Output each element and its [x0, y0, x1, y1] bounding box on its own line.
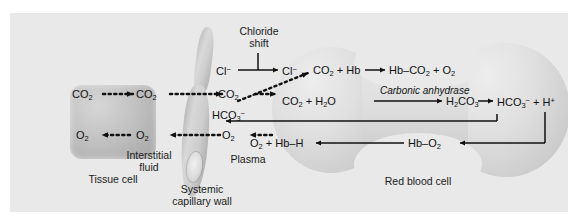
h2co3-co3-subscript: 3 [475, 100, 479, 109]
hydration-co2-subscript: 2 [299, 100, 303, 109]
diagram-canvas: CO2 O2 CO2 O2 CO2 HCO3− O2 Cl− Chloride … [0, 0, 575, 224]
co2-tissue-subscript: 2 [89, 93, 93, 102]
chloride-shift-label-line2: shift [236, 37, 282, 49]
reaction-oxygen-release: O2 + Hb–H [250, 137, 303, 153]
o2-interstitial-subscript: 2 [145, 134, 149, 143]
released-o2-subscript: 2 [259, 142, 263, 151]
species-o2-plasma: O2 [222, 129, 235, 145]
carbamino-co2-subscript: 2 [330, 69, 334, 78]
h2co3-h-subscript: 2 [454, 100, 458, 109]
illustration-panel: CO2 O2 CO2 O2 CO2 HCO3− O2 Cl− Chloride … [10, 13, 568, 212]
reaction-carbamino-reactants: CO2 + Hb [313, 64, 360, 80]
capillary-wall-label-line1: Systemic [150, 183, 254, 195]
red-blood-cell-label: Red blood cell [358, 175, 478, 187]
species-bicarbonate-plasma: HCO3− [212, 108, 245, 125]
reaction-carbamino-products: Hb–CO2 + O2 [389, 64, 455, 80]
water-subscript: 2 [323, 100, 327, 109]
hbco2-subscript: 2 [426, 69, 430, 78]
hco3-rbc-charge: − [526, 96, 530, 105]
hco3-plasma-charge: − [241, 109, 245, 118]
carbamino-o2-subscript: 2 [451, 69, 455, 78]
species-chloride-plasma: Cl− [216, 64, 231, 77]
co2-plasma-subscript: 2 [235, 93, 239, 102]
cl-rbc-charge: − [292, 65, 296, 74]
species-oxyhemoglobin: Hb–O2 [408, 137, 441, 153]
species-chloride-rbc: Cl− [282, 64, 297, 77]
species-co2-interstitial: CO2 [136, 88, 157, 104]
capillary-wall-label-line2: capillary wall [150, 195, 254, 207]
o2-tissue-subscript: 2 [85, 134, 89, 143]
co2-interstitial-subscript: 2 [153, 93, 157, 102]
species-co2-plasma: CO2 [218, 88, 239, 104]
interstitial-fluid-label-line1: Interstitial [114, 149, 184, 161]
cl-plasma-charge: − [226, 65, 230, 74]
plasma-label: Plasma [220, 153, 276, 165]
species-o2-tissue: O2 [76, 129, 89, 145]
interstitial-fluid-label-line2: fluid [114, 161, 184, 173]
chloride-shift-label-line1: Chloride [236, 25, 282, 37]
o2-plasma-subscript: 2 [231, 134, 235, 143]
species-co2-tissue: CO2 [72, 88, 93, 104]
species-o2-interstitial: O2 [136, 129, 149, 145]
reaction-hydration-reactants: CO2 + H2O [282, 95, 336, 111]
tissue-cell-label: Tissue cell [66, 173, 160, 185]
reaction-bicarbonate-proton: HCO3− + H+ [497, 95, 555, 112]
hbo2-subscript: 2 [437, 142, 441, 151]
proton-charge: + [550, 96, 554, 105]
species-carbonic-acid: H2CO3 [446, 95, 479, 111]
